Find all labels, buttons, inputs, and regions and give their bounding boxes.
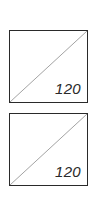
diagonal-cell-2: 120 xyxy=(9,113,88,186)
cell-value: 120 xyxy=(55,80,81,97)
cell-value: 120 xyxy=(55,163,81,180)
diagonal-cell-1: 120 xyxy=(9,30,88,103)
